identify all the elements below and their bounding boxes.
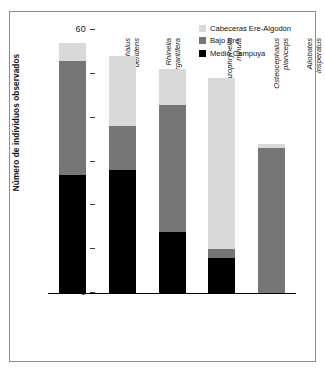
legend-item[interactable]: Cabeceras Ere-Algodón [199, 24, 317, 33]
legend-item-label: Bajo Ere [210, 36, 239, 45]
bar-group[interactable]: Osteocephalusderidens [59, 30, 86, 293]
bar-segment-medio-campuya[interactable] [208, 258, 235, 293]
y-axis-tick-mark [90, 292, 95, 293]
bar-segment-bajo-ere[interactable] [258, 148, 285, 293]
y-axis-tick-mark [90, 161, 95, 162]
bar-segment-bajo-ere[interactable] [109, 126, 136, 170]
y-axis-tick-mark [90, 29, 95, 30]
bar-stack[interactable] [109, 56, 136, 293]
bar-stack[interactable] [258, 144, 285, 293]
y-axis-tick-mark [90, 248, 95, 249]
legend-item-label: Medio Campuya [210, 49, 265, 58]
bar-segment-bajo-ere[interactable] [208, 249, 235, 258]
bar-group[interactable]: Osteocephalusplaniceps [208, 30, 235, 293]
legend-swatch-icon [199, 25, 206, 32]
bar-group[interactable]: Allobatesinsperatus [258, 30, 285, 293]
bar-group[interactable]: Amazophrynellaminuta [159, 30, 186, 293]
bar-stack[interactable] [208, 78, 235, 293]
y-axis-tick-mark [90, 117, 95, 118]
bar-segment-cabeceras-ere-algodon[interactable] [59, 43, 86, 61]
legend-swatch-icon [199, 50, 206, 57]
bar-segment-medio-campuya[interactable] [59, 175, 86, 293]
bar-segment-cabeceras-ere-algodon[interactable] [208, 78, 235, 249]
chart-legend: Cabeceras Ere-AlgodónBajo EreMedio Campu… [199, 24, 317, 61]
bar-segment-medio-campuya[interactable] [109, 170, 136, 293]
bar-stack[interactable] [59, 43, 86, 293]
bar-segment-cabeceras-ere-algodon[interactable] [109, 56, 136, 126]
bar-segment-medio-campuya[interactable] [159, 232, 186, 293]
y-axis-title: Número de individuos observados [12, 18, 21, 228]
plot-area: 0102030405060 OsteocephalusderidensRhine… [48, 30, 296, 293]
figure-container: Número de individuos observados 01020304… [0, 0, 325, 373]
y-axis-tick-mark [90, 73, 95, 74]
bar-segment-cabeceras-ere-algodon[interactable] [159, 69, 186, 104]
bar-segment-bajo-ere[interactable] [159, 105, 186, 232]
legend-item[interactable]: Bajo Ere [199, 36, 317, 45]
bar-group[interactable]: Rhinellamargaritifera [109, 30, 136, 293]
legend-item[interactable]: Medio Campuya [199, 49, 317, 58]
y-axis-tick-mark [90, 204, 95, 205]
legend-item-label: Cabeceras Ere-Algodón [210, 24, 291, 33]
bar-stack[interactable] [159, 69, 186, 293]
legend-swatch-icon [199, 37, 206, 44]
bar-segment-bajo-ere[interactable] [59, 61, 86, 175]
